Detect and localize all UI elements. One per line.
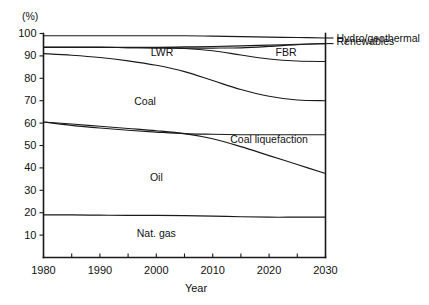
series-label-coal: Coal xyxy=(134,95,156,107)
series-curve-group xyxy=(44,36,326,218)
edge-label-renewables: Renewables xyxy=(337,35,395,47)
series-label-oil: Oil xyxy=(150,171,163,183)
y-tick-label: 80 xyxy=(24,72,36,84)
y-tick-label: 90 xyxy=(24,49,36,61)
series-curve-nat-gas xyxy=(44,215,326,217)
y-axis-unit-label: (%) xyxy=(22,10,38,22)
x-tick-label: 1990 xyxy=(88,264,112,276)
series-label-nat-gas: Nat. gas xyxy=(137,227,176,239)
series-curve-renewables xyxy=(44,36,326,38)
x-tick-label: 2010 xyxy=(200,264,224,276)
inline-label-group: Nat. gasOilCoal liquefactionCoalLWRFBR xyxy=(134,46,308,239)
x-tick-label: 2030 xyxy=(313,264,337,276)
x-tick-label: 2000 xyxy=(144,264,168,276)
x-axis-title: Year xyxy=(185,282,208,294)
right-edge-label-group: Hydro/geothermalRenewables xyxy=(326,32,420,46)
y-tick-label: 40 xyxy=(24,161,36,173)
x-tick-label: 1980 xyxy=(31,264,55,276)
y-tick-label: 60 xyxy=(24,117,36,129)
series-label-coal-liquefaction: Coal liquefaction xyxy=(230,133,308,145)
y-tick-label: 100 xyxy=(18,27,36,39)
y-tick-label: 20 xyxy=(24,206,36,218)
y-tick-label: 50 xyxy=(24,139,36,151)
series-label-fbr: FBR xyxy=(276,46,297,58)
series-label-lwr: LWR xyxy=(151,46,174,58)
chart-axes xyxy=(44,34,326,258)
x-tick-label: 2020 xyxy=(257,264,281,276)
y-tick-group: 102030405060708090100 xyxy=(18,27,43,241)
series-curve-oil xyxy=(44,122,326,174)
chart-figure: (%) 102030405060708090100 19801990200020… xyxy=(0,0,429,305)
y-tick-label: 30 xyxy=(24,184,36,196)
share-line-chart: (%) 102030405060708090100 19801990200020… xyxy=(0,0,429,305)
y-tick-label: 10 xyxy=(24,229,36,241)
y-tick-label: 70 xyxy=(24,94,36,106)
